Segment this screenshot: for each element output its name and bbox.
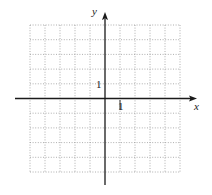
coordinate-plane: y x 1 1	[0, 0, 212, 195]
x-axis-label: x	[194, 101, 199, 112]
y-axis-arrow-icon	[102, 12, 108, 20]
x-unit-label: 1	[118, 101, 124, 112]
coordinate-plane-svg	[0, 0, 212, 195]
y-unit-label: 1	[96, 79, 102, 90]
y-axis-label: y	[92, 6, 97, 17]
